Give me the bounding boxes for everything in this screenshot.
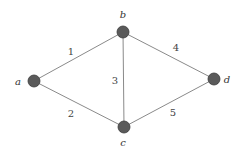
vertex-label: d	[224, 74, 230, 85]
nodes: abcd	[15, 9, 230, 148]
edge-a-c	[34, 81, 124, 127]
vertex-d	[208, 73, 220, 85]
edge-weight-label: 2	[68, 108, 74, 119]
edge-weight-label: 1	[68, 46, 74, 57]
edge-c-d	[124, 79, 214, 127]
edge-weight-label: 4	[173, 42, 179, 53]
vertex-label: a	[15, 76, 21, 87]
edge-b-d	[123, 32, 214, 79]
vertex-label: b	[120, 9, 126, 20]
vertex-label: c	[120, 137, 126, 148]
vertex-b	[117, 26, 129, 38]
edge-a-b	[34, 32, 123, 81]
edge-b-c	[123, 32, 124, 127]
edges: 12345	[34, 32, 214, 127]
vertex-c	[118, 121, 130, 133]
graph-diagram: 12345 abcd	[0, 0, 242, 153]
vertex-a	[28, 75, 40, 87]
edge-weight-label: 5	[170, 107, 176, 118]
edge-weight-label: 3	[112, 75, 118, 86]
